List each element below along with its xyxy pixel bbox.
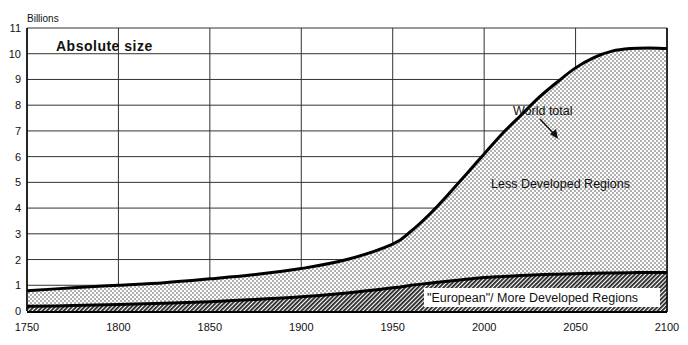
world-total-label: World total — [513, 104, 573, 118]
x-tick-label: 2100 — [655, 321, 679, 333]
x-tick-label: 1950 — [380, 321, 404, 333]
x-axis-ticks: 17501800185019001950200020502100 — [15, 321, 679, 333]
y-tick-label: 8 — [15, 99, 21, 111]
y-tick-label: 5 — [15, 176, 21, 188]
more-developed-label: "European"/ More Developed Regions — [427, 291, 638, 305]
y-tick-label: 10 — [9, 48, 21, 60]
x-tick-label: 1750 — [15, 321, 39, 333]
chart-title: Absolute size — [56, 38, 153, 54]
x-tick-label: 1850 — [198, 321, 222, 333]
y-tick-label: 2 — [15, 254, 21, 266]
population-area-chart: 01234567891011 1750180018501900195020002… — [0, 0, 688, 345]
x-tick-label: 1800 — [106, 321, 130, 333]
y-tick-label: 4 — [15, 202, 21, 214]
y-axis-unit-label: Billions — [27, 13, 59, 24]
x-tick-label: 1900 — [289, 321, 313, 333]
y-tick-label: 9 — [15, 73, 21, 85]
y-tick-label: 6 — [15, 151, 21, 163]
x-tick-label: 2000 — [472, 321, 496, 333]
y-tick-label: 7 — [15, 125, 21, 137]
x-tick-label: 2050 — [563, 321, 587, 333]
y-tick-label: 3 — [15, 228, 21, 240]
less-developed-label: Less Developed Regions — [491, 177, 630, 191]
y-tick-label: 11 — [10, 22, 21, 34]
y-tick-label: 1 — [15, 279, 21, 291]
y-tick-label: 0 — [15, 305, 21, 317]
y-axis-ticks: 01234567891011 — [9, 22, 21, 317]
